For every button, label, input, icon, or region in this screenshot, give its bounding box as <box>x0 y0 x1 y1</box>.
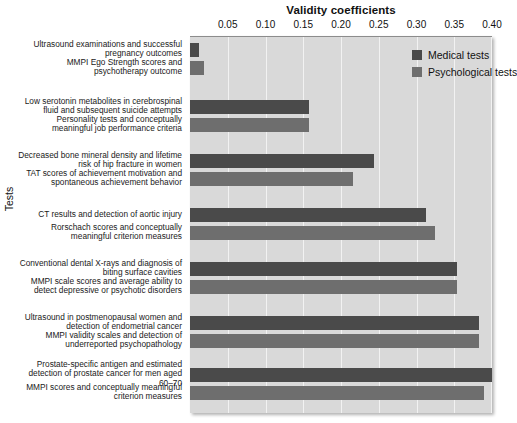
x-tick-label: 0.10 <box>256 19 275 30</box>
x-tick-label: 0.30 <box>407 19 426 30</box>
bars-layer <box>190 37 492 413</box>
category-label: Ultrasound examinations and successful p… <box>16 40 182 59</box>
legend-item: Medical tests <box>412 49 517 61</box>
legend-label: Psychological tests <box>428 66 517 78</box>
category-label: Low serotonin metabolites in cerebrospin… <box>16 97 182 116</box>
chart-title: Validity coefficients <box>190 4 492 16</box>
bar <box>190 154 374 168</box>
category-label: Decreased bone mineral density and lifet… <box>16 151 182 170</box>
x-tick-label: 0.20 <box>331 19 350 30</box>
bar <box>190 61 204 75</box>
category-label: MMPI validity scales and detection of un… <box>16 331 182 350</box>
bar <box>190 262 457 276</box>
category-axis-labels: Ultrasound examinations and successful p… <box>18 36 186 413</box>
category-label: CT results and detection of aortic injur… <box>16 210 182 219</box>
y-axis-title: Tests <box>3 177 15 221</box>
legend-label: Medical tests <box>428 49 489 61</box>
category-label: MMPI scores and conceptually meaningful … <box>16 383 182 402</box>
bar <box>190 316 479 330</box>
bar <box>190 208 426 222</box>
legend-item: Psychological tests <box>412 66 517 78</box>
plot-area: Medical testsPsychological tests <box>190 36 492 413</box>
category-label: Ultrasound in postmenopausal women and d… <box>16 313 182 332</box>
bar <box>190 100 309 114</box>
category-label: Personality tests and conceptually meani… <box>16 115 182 134</box>
bar <box>190 334 479 348</box>
category-label: Rorschach scores and conceptually meanin… <box>16 223 182 242</box>
legend-swatch-icon <box>412 50 422 60</box>
bar <box>190 172 353 186</box>
x-tick-label: 0.35 <box>445 19 464 30</box>
chart-legend: Medical testsPsychological tests <box>412 49 517 83</box>
bar <box>190 118 309 132</box>
bar <box>190 280 457 294</box>
x-axis-tick-labels: 0.050.100.150.200.250.300.350.40 <box>190 19 492 33</box>
bar <box>190 368 492 382</box>
x-tick-label: 0.05 <box>218 19 237 30</box>
legend-swatch-icon <box>412 67 422 77</box>
x-tick-label: 0.40 <box>482 19 501 30</box>
bar <box>190 43 199 57</box>
x-tick-label: 0.15 <box>294 19 313 30</box>
x-tick-label: 0.25 <box>369 19 388 30</box>
bar <box>190 226 435 240</box>
category-label: TAT scores of achievement motivation and… <box>16 169 182 188</box>
category-label: MMPI Ego Strength scores and psychothera… <box>16 58 182 77</box>
category-label: Conventional dental X-rays and diagnosis… <box>16 259 182 278</box>
category-label: MMPI scale scores and average ability to… <box>16 277 182 296</box>
bar <box>190 386 484 400</box>
